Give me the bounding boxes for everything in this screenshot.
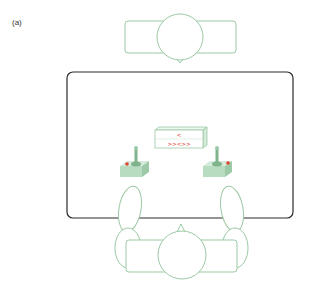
person-bottom [115, 184, 248, 279]
joystick-right-stick [216, 148, 219, 164]
right-forearm [217, 184, 247, 233]
bottom-person-head [158, 231, 206, 279]
display-box: < >><>> [155, 127, 207, 148]
diagram-canvas: < >><>> [0, 0, 309, 286]
top-person-head [157, 14, 203, 60]
joystick-left [120, 146, 149, 177]
joystick-right [203, 146, 232, 177]
person-top [125, 14, 236, 63]
joystick-left-button [125, 162, 129, 166]
joystick-right-button [226, 161, 230, 165]
display-line-1: < [177, 132, 182, 138]
left-forearm [115, 184, 145, 233]
display-line-2: >><>> [167, 141, 190, 147]
joystick-left-stick [135, 148, 138, 164]
